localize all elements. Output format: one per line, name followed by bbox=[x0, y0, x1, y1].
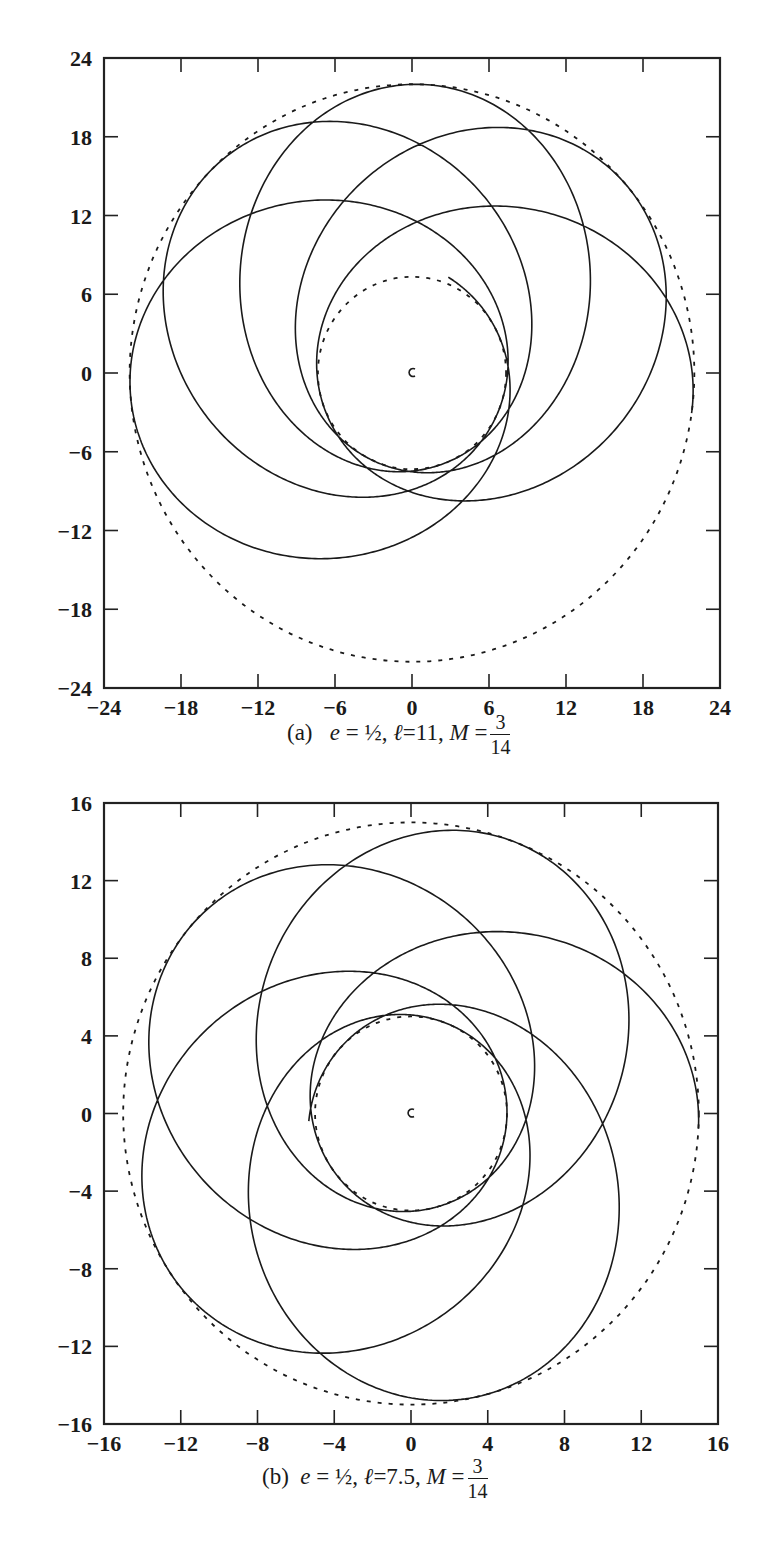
x-tick-label: 8 bbox=[559, 1431, 570, 1456]
bound-circle bbox=[318, 277, 506, 469]
y-tick-label: 6 bbox=[81, 282, 92, 307]
plot-frame-b bbox=[104, 803, 718, 1424]
x-tick-label: 12 bbox=[630, 1431, 652, 1456]
y-tick-label: −8 bbox=[68, 1257, 92, 1282]
fraction-b: 314 bbox=[468, 1456, 488, 1501]
y-tick-label: −12 bbox=[57, 1334, 92, 1359]
plot-a: −24−18−12−606121824−24−18−12−606121824 bbox=[0, 0, 769, 780]
y-tick-label: −18 bbox=[57, 597, 92, 622]
center-mark-icon bbox=[409, 369, 415, 377]
y-tick-label: 24 bbox=[70, 46, 92, 71]
y-tick-label: 16 bbox=[70, 791, 92, 816]
caption-b-label: (b) bbox=[262, 1464, 289, 1489]
x-tick-label: −8 bbox=[246, 1431, 270, 1456]
x-tick-label: 24 bbox=[709, 695, 731, 720]
bound-circle bbox=[123, 822, 699, 1404]
y-tick-label: 12 bbox=[70, 869, 92, 894]
y-tick-label: −16 bbox=[57, 1412, 92, 1437]
x-tick-label: 18 bbox=[632, 695, 654, 720]
x-tick-label: −12 bbox=[241, 695, 276, 720]
caption-b: (b) e = ½, ℓ=7.5, M =314 bbox=[262, 1456, 488, 1501]
y-tick-label: 0 bbox=[81, 361, 92, 386]
figure-a: −24−18−12−606121824−24−18−12−606121824 (… bbox=[0, 0, 769, 780]
fraction-a: 314 bbox=[490, 712, 510, 757]
x-tick-label: 4 bbox=[482, 1431, 493, 1456]
y-tick-label: 4 bbox=[81, 1024, 92, 1049]
x-tick-label: −12 bbox=[163, 1431, 198, 1456]
orbit-path bbox=[130, 84, 693, 558]
y-tick-label: 18 bbox=[70, 125, 92, 150]
figure-b: −16−12−8−40481216−16−12−8−40481216 (b) e… bbox=[0, 780, 769, 1543]
x-tick-label: 16 bbox=[707, 1431, 729, 1456]
caption-a: (a) e = ½, ℓ=11, M =314 bbox=[287, 712, 510, 757]
y-tick-label: −24 bbox=[57, 676, 92, 701]
x-tick-label: 0 bbox=[406, 1431, 417, 1456]
y-tick-label: −6 bbox=[68, 440, 92, 465]
orbit-path bbox=[142, 830, 699, 1400]
bound-circle bbox=[315, 1016, 507, 1210]
x-tick-label: 12 bbox=[555, 695, 577, 720]
plot-frame-a bbox=[104, 58, 720, 688]
caption-a-label: (a) bbox=[287, 720, 313, 745]
y-tick-label: 8 bbox=[81, 946, 92, 971]
x-tick-label: −18 bbox=[164, 695, 199, 720]
y-tick-label: −4 bbox=[68, 1179, 92, 1204]
x-tick-label: −4 bbox=[322, 1431, 346, 1456]
y-tick-label: 12 bbox=[70, 204, 92, 229]
plot-b: −16−12−8−40481216−16−12−8−40481216 bbox=[0, 780, 769, 1543]
y-tick-label: 0 bbox=[81, 1102, 92, 1127]
bound-circle bbox=[130, 84, 695, 662]
center-mark-icon bbox=[408, 1109, 414, 1117]
y-tick-label: −12 bbox=[57, 519, 92, 544]
